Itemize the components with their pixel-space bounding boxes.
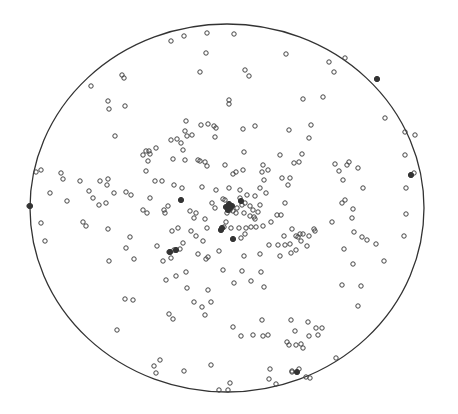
data-point: [374, 242, 378, 246]
data-point: [321, 95, 325, 99]
data-point: [182, 369, 186, 373]
data-point: [124, 246, 128, 250]
data-point: [154, 146, 158, 150]
data-point: [248, 204, 252, 208]
data-point: [292, 161, 296, 165]
data-point: [258, 186, 262, 190]
data-point: [206, 288, 210, 292]
data-point: [145, 211, 149, 215]
data-point: [332, 70, 336, 74]
data-point: [34, 170, 38, 174]
data-point: [330, 220, 334, 224]
data-point-dense: [227, 205, 232, 210]
data-point: [340, 201, 344, 205]
data-point: [182, 34, 186, 38]
data-point: [161, 259, 165, 263]
data-point: [179, 141, 183, 145]
data-point-dense: [178, 197, 183, 202]
data-point-dense: [374, 76, 379, 81]
data-point: [214, 188, 218, 192]
data-point: [283, 243, 287, 247]
data-point-dense: [173, 247, 178, 252]
data-point-dense: [238, 198, 243, 203]
data-point: [383, 116, 387, 120]
data-point: [89, 84, 93, 88]
data-point: [260, 318, 264, 322]
data-point: [327, 60, 331, 64]
data-point-dense: [294, 369, 299, 374]
data-point: [261, 224, 265, 228]
data-point: [264, 191, 268, 195]
data-point: [166, 204, 170, 208]
data-point: [176, 226, 180, 230]
data-point: [242, 150, 246, 154]
data-point: [337, 169, 341, 173]
data-point: [200, 185, 204, 189]
data-point: [169, 39, 173, 43]
data-point: [254, 225, 258, 229]
data-point: [413, 133, 417, 137]
data-point: [356, 304, 360, 308]
data-point: [213, 135, 217, 139]
data-point: [87, 189, 91, 193]
data-point: [105, 183, 109, 187]
data-point: [350, 216, 354, 220]
data-point: [106, 227, 110, 231]
data-point: [61, 177, 65, 181]
data-point: [244, 226, 248, 230]
data-point: [262, 178, 266, 182]
data-point: [314, 326, 318, 330]
data-point-dense: [230, 236, 235, 241]
data-point: [194, 211, 198, 215]
data-point: [238, 188, 242, 192]
data-point: [158, 358, 162, 362]
data-point: [242, 254, 246, 258]
data-point: [283, 201, 287, 205]
data-point: [210, 201, 214, 205]
data-point: [266, 168, 270, 172]
data-point: [258, 203, 262, 207]
data-point: [170, 229, 174, 233]
data-point: [305, 244, 309, 248]
data-point: [294, 343, 298, 347]
data-point: [249, 279, 253, 283]
data-point: [196, 252, 200, 256]
data-point: [104, 201, 108, 205]
data-point: [148, 196, 152, 200]
data-point: [201, 239, 205, 243]
data-point: [240, 269, 244, 273]
data-point: [221, 268, 225, 272]
data-point: [261, 334, 265, 338]
data-point: [167, 312, 171, 316]
data-point: [243, 232, 247, 236]
data-point: [43, 239, 47, 243]
data-point: [365, 238, 369, 242]
data-point: [342, 247, 346, 251]
data-point: [274, 382, 278, 386]
data-point: [183, 158, 187, 162]
data-point: [278, 153, 282, 157]
data-point-dense: [167, 249, 172, 254]
data-point: [171, 157, 175, 161]
data-point: [132, 257, 136, 261]
data-point: [359, 284, 363, 288]
data-point: [106, 99, 110, 103]
data-point-dense: [408, 172, 413, 177]
data-point: [256, 210, 260, 214]
data-point: [293, 329, 297, 333]
data-point: [253, 124, 257, 128]
data-point: [229, 226, 233, 230]
data-point: [141, 153, 145, 157]
data-point: [128, 235, 132, 239]
data-point: [356, 166, 360, 170]
data-point: [227, 186, 231, 190]
data-point: [267, 243, 271, 247]
data-point: [141, 208, 145, 212]
data-point: [107, 107, 111, 111]
data-point: [123, 297, 127, 301]
data-point: [123, 104, 127, 108]
data-point: [301, 232, 305, 236]
data-point: [39, 221, 43, 225]
data-point: [184, 119, 188, 123]
data-point: [289, 251, 293, 255]
